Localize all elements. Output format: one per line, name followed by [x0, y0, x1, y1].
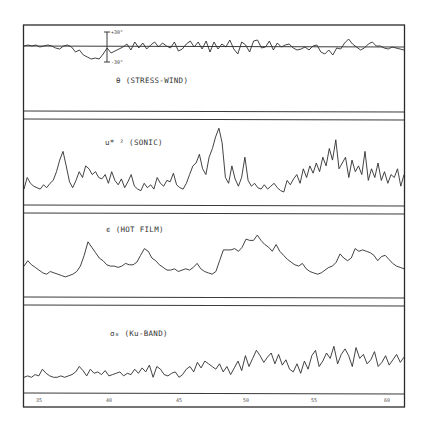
- panel-separator: [24, 297, 405, 298]
- trace-u-star-squared: [24, 128, 404, 192]
- scale-bottom-label: -30°: [111, 59, 123, 65]
- trace-sigma0: [24, 346, 404, 377]
- zero-line: [24, 46, 405, 47]
- panel-epsilon: ϵ (HOT FILM): [24, 225, 404, 277]
- trace-theta: [24, 39, 404, 59]
- x-tick-label: 50: [243, 397, 249, 403]
- x-tick-label: 40: [106, 397, 112, 403]
- x-axis-line: [24, 393, 405, 394]
- panel-theta: +30° -30° θ (STRESS-WIND): [24, 29, 405, 85]
- panel-separator: [24, 213, 405, 214]
- x-tick-label: 35: [36, 397, 42, 403]
- panel-label-theta: θ (STRESS-WIND): [116, 76, 188, 85]
- panel-label-sigma0: σ₀ (Ku-BAND): [110, 329, 168, 338]
- x-axis-ticks: 354045505560: [36, 397, 390, 403]
- trace-epsilon: [24, 235, 404, 277]
- panel-label-u-star: u* ² (SONIC): [105, 138, 163, 147]
- x-tick-label: 60: [384, 397, 390, 403]
- panel-separator: [24, 119, 405, 120]
- panel-separator: [24, 111, 405, 112]
- x-tick-label: 55: [311, 397, 317, 403]
- panel-label-epsilon: ϵ (HOT FILM): [106, 225, 164, 234]
- panel-separator: [24, 205, 405, 206]
- panel-sigma0: σ₀ (Ku-BAND): [24, 329, 404, 377]
- scale-top-label: +30°: [111, 29, 123, 35]
- x-tick-label: 45: [176, 397, 182, 403]
- strip-chart-figure: +30° -30° θ (STRESS-WIND) u* ² (SONIC) ϵ…: [0, 0, 426, 432]
- panel-separator: [24, 305, 405, 306]
- scale-bar: +30° -30°: [104, 29, 123, 65]
- outer-frame: [24, 25, 405, 407]
- panel-u-star-squared: u* ² (SONIC): [24, 128, 404, 192]
